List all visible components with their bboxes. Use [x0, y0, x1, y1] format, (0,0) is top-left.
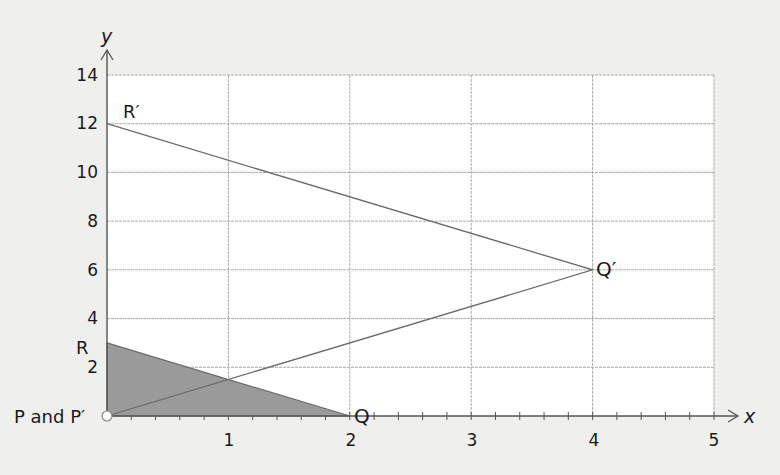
origin-point-marker: [102, 411, 112, 421]
label-p-and-p-prime: P and P′: [14, 406, 85, 427]
y-tick-6: 6: [87, 260, 98, 280]
y-tick-12: 12: [76, 113, 98, 133]
label-r-prime: R′: [123, 101, 140, 122]
y-axis-label: y: [100, 25, 113, 47]
y-tick-2: 2: [87, 357, 98, 377]
x-tick-2: 2: [346, 430, 357, 450]
x-tick-1: 1: [224, 430, 235, 450]
plot-area: [107, 75, 714, 416]
x-tick-labels: 1 2 3 4 5: [224, 430, 720, 450]
x-tick-3: 3: [467, 430, 478, 450]
y-tick-4: 4: [87, 308, 98, 328]
coordinate-plane-figure: x y 1 2 3 4 5 2 4 6 8 10 12 14 P and P′ …: [0, 0, 780, 475]
y-tick-10: 10: [76, 162, 98, 182]
label-r: R: [76, 337, 89, 358]
y-tick-14: 14: [76, 65, 98, 85]
x-tick-4: 4: [589, 430, 600, 450]
label-q-prime: Q′: [596, 257, 617, 281]
chart-svg: x y 1 2 3 4 5 2 4 6 8 10 12 14 P and P′ …: [0, 0, 780, 475]
y-tick-8: 8: [87, 211, 98, 231]
label-q: Q: [354, 404, 370, 428]
x-tick-5: 5: [709, 430, 720, 450]
y-tick-labels: 2 4 6 8 10 12 14: [76, 65, 98, 377]
x-axis-label: x: [743, 405, 756, 427]
